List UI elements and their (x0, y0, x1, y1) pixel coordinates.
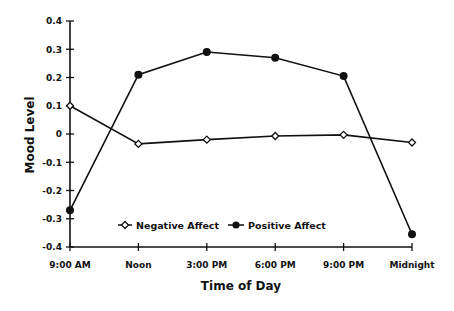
data-point (203, 136, 210, 143)
x-tick-label: Noon (125, 260, 151, 270)
data-point (340, 131, 347, 138)
open-diamond-marker-icon (122, 222, 129, 229)
series-line (70, 52, 412, 234)
data-point (135, 140, 142, 147)
data-point (66, 206, 74, 214)
x-tick-label: 3:00 PM (186, 260, 227, 270)
legend-positive-label: Positive Affect (248, 220, 326, 231)
filled-circle-marker-icon (232, 221, 239, 228)
legend-negative-label: Negative Affect (136, 220, 219, 231)
y-tick-label: -0.3 (42, 214, 62, 224)
data-point (409, 139, 416, 146)
y-axis: 0.40.30.20.10-0.1-0.2-0.3-0.4 (42, 16, 74, 252)
y-tick-label: 0.4 (46, 16, 62, 26)
y-tick-label: -0.2 (42, 186, 62, 196)
x-tick-label: 6:00 PM (255, 260, 296, 270)
x-axis: 9:00 AMNoon3:00 PM6:00 PM9:00 PMMidnight (49, 243, 435, 270)
y-tick-label: 0.3 (46, 45, 62, 55)
x-tick-label: Midnight (389, 260, 435, 270)
y-tick-label: 0 (56, 129, 62, 139)
y-tick-label: -0.1 (42, 158, 62, 168)
series-layer (66, 48, 416, 238)
data-point (67, 102, 74, 109)
x-tick-label: 9:00 AM (49, 260, 90, 270)
y-tick-label: 0.2 (46, 73, 62, 83)
y-axis-title: Mood Level (23, 96, 37, 173)
data-point (272, 132, 279, 139)
y-tick-label: -0.4 (42, 242, 62, 252)
legend: Negative Affect Positive Affect (118, 220, 326, 231)
data-point (408, 230, 416, 238)
x-axis-title: Time of Day (201, 279, 281, 293)
series-line (70, 106, 412, 144)
y-tick-label: 0.1 (46, 101, 62, 111)
data-point (134, 71, 142, 79)
data-point (203, 48, 211, 56)
x-tick-label: 9:00 PM (323, 260, 364, 270)
line-chart: 0.40.30.20.10-0.1-0.2-0.3-0.4 9:00 AMNoo… (0, 0, 454, 311)
data-point (271, 54, 279, 62)
data-point (340, 72, 348, 80)
